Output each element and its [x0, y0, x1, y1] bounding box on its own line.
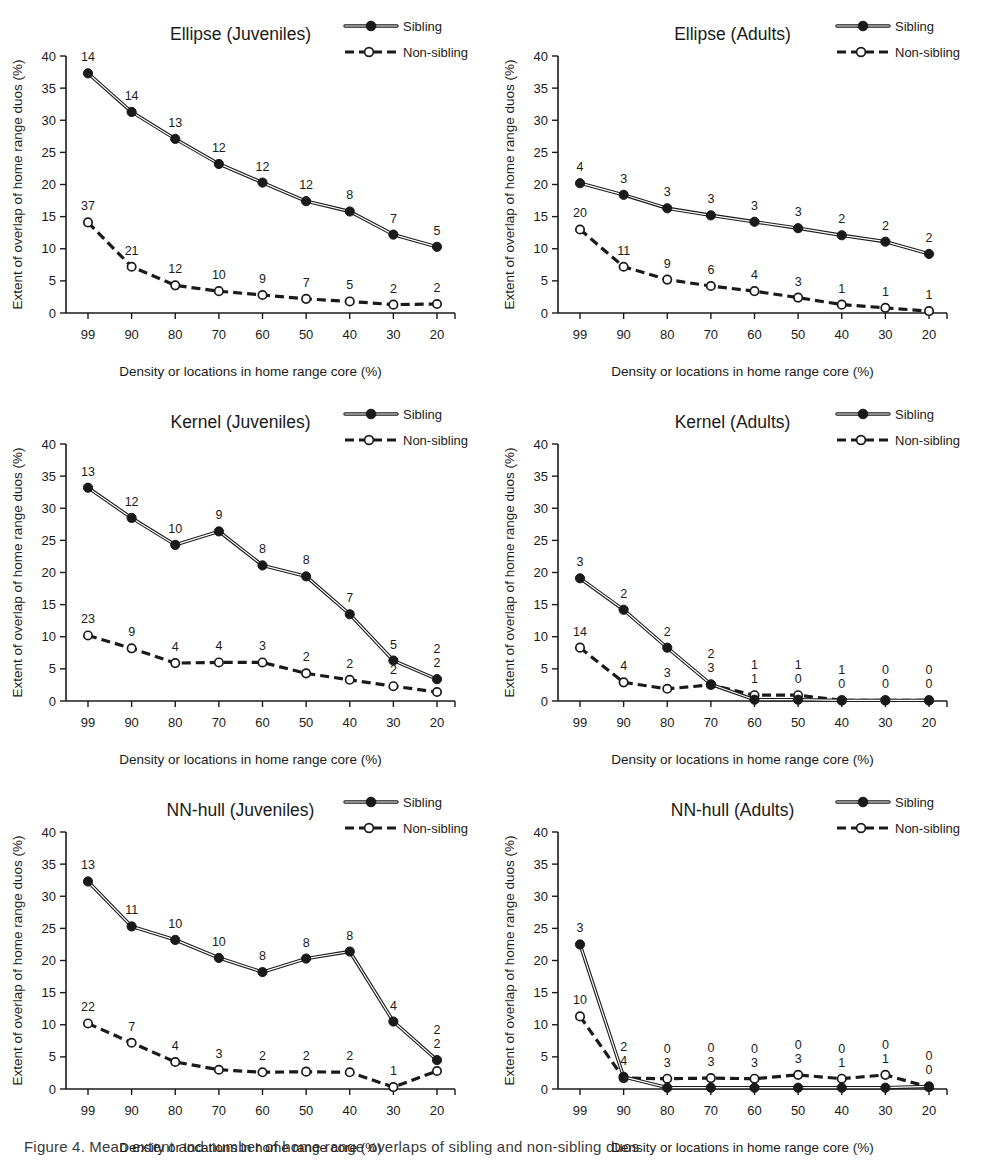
data-label-sibling: 13: [81, 465, 95, 479]
y-tick-label: 40: [534, 825, 548, 840]
x-tick-label: 70: [212, 1103, 226, 1118]
legend-item-sibling[interactable]: Sibling: [345, 19, 442, 34]
data-point-sibling: [794, 224, 803, 233]
legend-item-sibling[interactable]: Sibling: [837, 407, 934, 422]
legend: SiblingNon-sibling: [345, 19, 468, 60]
data-label-non-sibling: 0: [838, 677, 845, 691]
data-label-sibling: 3: [664, 185, 671, 199]
x-tick-label: 60: [747, 715, 761, 730]
data-point-sibling: [171, 935, 180, 944]
data-label-sibling: 0: [926, 1049, 933, 1063]
data-point-non-sibling: [433, 688, 441, 696]
legend-marker-filled-circle-icon: [858, 797, 868, 807]
data-label-sibling: 0: [838, 1042, 845, 1056]
data-label-sibling: 8: [346, 929, 353, 943]
legend-label-sibling: Sibling: [895, 407, 934, 422]
data-point-non-sibling: [389, 300, 397, 308]
x-tick-label: 99: [573, 715, 587, 730]
x-tick-label: 50: [791, 327, 805, 342]
legend-item-sibling[interactable]: Sibling: [837, 795, 934, 810]
y-tick-label: 40: [534, 49, 548, 64]
data-label-sibling: 2: [926, 231, 933, 245]
data-label-non-sibling: 2: [303, 1049, 310, 1063]
legend-marker-filled-circle-icon: [366, 797, 376, 807]
data-label-non-sibling: 3: [707, 661, 714, 675]
data-point-non-sibling: [258, 291, 266, 299]
legend-item-non-sibling[interactable]: Non-sibling: [837, 45, 960, 60]
data-label-sibling: 10: [212, 935, 226, 949]
legend-marker-filled-circle-icon: [858, 409, 868, 419]
data-label-non-sibling: 3: [664, 666, 671, 680]
x-tick-label: 70: [212, 327, 226, 342]
legend-item-sibling[interactable]: Sibling: [345, 795, 442, 810]
data-label-sibling: 10: [168, 917, 182, 931]
data-label-sibling: 2: [434, 642, 441, 656]
data-label-sibling: 8: [303, 936, 310, 950]
x-tick-label: 99: [573, 327, 587, 342]
legend-item-non-sibling[interactable]: Non-sibling: [837, 821, 960, 836]
legend-item-non-sibling[interactable]: Non-sibling: [837, 433, 960, 448]
data-point-non-sibling: [433, 1067, 441, 1075]
y-axis-label: Extent of overlap of home range duos (%): [10, 448, 25, 698]
y-tick-label: 40: [42, 825, 56, 840]
data-label-non-sibling: 4: [172, 1039, 179, 1053]
data-label-sibling: 1: [751, 658, 758, 672]
legend-item-non-sibling[interactable]: Non-sibling: [345, 821, 468, 836]
y-tick-label: 35: [534, 81, 548, 96]
data-label-sibling: 0: [882, 663, 889, 677]
data-label-non-sibling: 2: [346, 657, 353, 671]
data-point-sibling: [389, 230, 398, 239]
data-label-sibling: 12: [299, 178, 313, 192]
data-point-sibling: [345, 207, 354, 216]
x-tick-label: 20: [430, 327, 444, 342]
y-tick-label: 35: [42, 81, 56, 96]
data-point-sibling: [432, 675, 441, 684]
data-label-non-sibling: 5: [346, 278, 353, 292]
data-point-sibling: [924, 696, 933, 705]
data-point-sibling: [881, 1083, 890, 1092]
y-tick-label: 10: [42, 629, 56, 644]
data-label-non-sibling: 0: [795, 672, 802, 686]
y-tick-label: 0: [49, 694, 56, 709]
panel-title: Kernel (Juveniles): [170, 412, 310, 432]
legend-marker-filled-circle-icon: [366, 21, 376, 31]
data-label-non-sibling: 3: [215, 1047, 222, 1061]
legend-item-sibling[interactable]: Sibling: [345, 407, 442, 422]
x-tick-label: 80: [168, 1103, 182, 1118]
y-axis-label: Extent of overlap of home range duos (%): [502, 836, 517, 1086]
data-point-sibling: [750, 695, 759, 704]
data-label-sibling: 13: [81, 858, 95, 872]
x-tick-label: 40: [835, 327, 849, 342]
axes: 0510152025303540999080706050403020: [42, 49, 455, 343]
data-label-non-sibling: 20: [573, 206, 587, 220]
y-tick-label: 30: [534, 113, 548, 128]
x-tick-label: 70: [704, 327, 718, 342]
data-label-sibling: 3: [577, 921, 584, 935]
x-tick-label: 30: [386, 1103, 400, 1118]
legend: SiblingNon-sibling: [837, 795, 960, 836]
legend-item-non-sibling[interactable]: Non-sibling: [345, 433, 468, 448]
data-label-sibling: 0: [664, 1042, 671, 1056]
data-point-sibling: [575, 179, 584, 188]
x-tick-label: 30: [878, 1103, 892, 1118]
data-label-sibling: 0: [882, 1038, 889, 1052]
data-label-non-sibling: 14: [573, 625, 587, 639]
data-label-non-sibling: 37: [81, 199, 95, 213]
data-point-sibling: [794, 1083, 803, 1092]
y-tick-label: 10: [534, 1017, 548, 1032]
legend-item-non-sibling[interactable]: Non-sibling: [345, 45, 468, 60]
data-label-non-sibling: 9: [259, 272, 266, 286]
x-tick-label: 80: [168, 327, 182, 342]
data-label-non-sibling: 3: [795, 1052, 802, 1066]
x-tick-label: 60: [255, 327, 269, 342]
data-point-non-sibling: [663, 275, 671, 283]
data-label-non-sibling: 3: [664, 1056, 671, 1070]
x-tick-label: 70: [704, 1103, 718, 1118]
panel-title: NN-hull (Adults): [671, 800, 795, 820]
data-point-sibling: [750, 1083, 759, 1092]
y-tick-label: 20: [42, 953, 56, 968]
data-point-sibling: [302, 954, 311, 963]
data-label-non-sibling: 11: [617, 244, 630, 258]
legend-item-sibling[interactable]: Sibling: [837, 19, 934, 34]
data-point-sibling: [750, 217, 759, 226]
